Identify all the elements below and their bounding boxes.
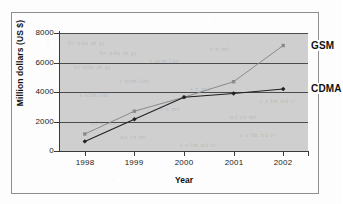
- y-axis-tick-label: 6000: [18, 58, 54, 67]
- data-point-gsm: [83, 132, 86, 135]
- series-label-cdma: CDMA: [310, 83, 343, 94]
- y-axis-tick-labels: 02000400060008000: [18, 0, 54, 204]
- data-point-cdma: [281, 87, 285, 91]
- y-axis-tick-label: 2000: [18, 117, 54, 126]
- series-lines: [60, 33, 308, 151]
- plot-inner: hr ndn m grhr ndn m grhr ndn m grt nrm l…: [60, 33, 308, 151]
- x-axis-tick-label: 1999: [114, 158, 154, 167]
- x-axis-end-tick: [308, 151, 309, 156]
- x-axis-tick: [134, 151, 135, 156]
- series-line-gsm: [85, 46, 283, 135]
- plot-area: hr ndn m grhr ndn m grhr ndn m grt nrm l…: [60, 33, 308, 151]
- series-label-gsm: GSM: [310, 40, 335, 51]
- x-axis-tick: [85, 151, 86, 156]
- data-point-gsm: [232, 80, 235, 83]
- data-point-cdma: [231, 91, 235, 95]
- x-axis-tick-label: 2002: [263, 158, 303, 167]
- x-axis-tick: [234, 151, 235, 156]
- y-axis-tick-label: 8000: [18, 28, 54, 37]
- x-axis-tick: [184, 151, 185, 156]
- data-point-gsm: [133, 110, 136, 113]
- y-axis-tick-label: 4000: [18, 87, 54, 96]
- data-point-cdma: [132, 117, 136, 121]
- y-axis-tick-label: 0: [18, 146, 54, 155]
- x-axis-tick-label: 2001: [214, 158, 254, 167]
- x-axis-title: Year: [60, 175, 308, 185]
- x-axis-tick-label: 1998: [65, 158, 105, 167]
- x-axis-tick: [283, 151, 284, 156]
- x-axis-tick-label: 2000: [164, 158, 204, 167]
- data-point-gsm: [282, 44, 285, 47]
- data-point-cdma: [83, 139, 87, 143]
